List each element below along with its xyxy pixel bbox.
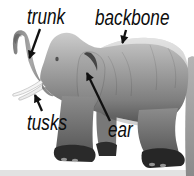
- label-backbone: backbone: [95, 7, 169, 29]
- diagram-canvas: trunk backbone tusks ear: [0, 0, 194, 176]
- trunk-arrow: [30, 29, 41, 58]
- elephant-eye: [55, 57, 58, 61]
- tusks-arrow: [35, 95, 42, 111]
- front-toenail: [72, 159, 78, 162]
- label-trunk: trunk: [27, 6, 65, 28]
- ground-strip: [0, 170, 194, 176]
- hind-toenail: [149, 163, 155, 166]
- label-ear: ear: [108, 119, 133, 141]
- front-toenail: [61, 158, 67, 161]
- hind-toenail: [160, 164, 166, 167]
- elephant-far-front-foot: [96, 142, 117, 156]
- label-tusks: tusks: [27, 112, 67, 134]
